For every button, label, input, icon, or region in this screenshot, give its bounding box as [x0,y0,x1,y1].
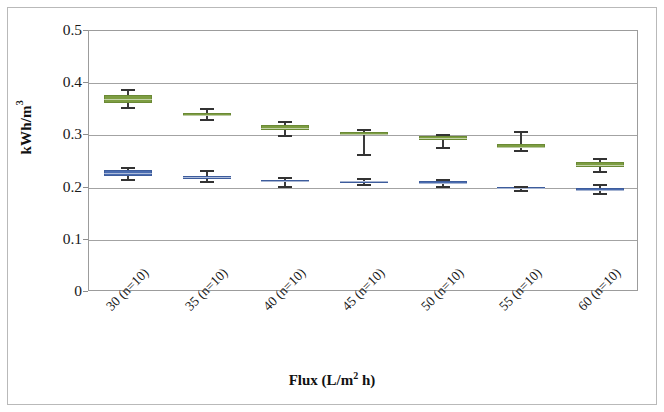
whisker-cap-high [514,131,528,133]
boxplot-green [497,31,545,292]
boxplot-green [340,31,388,292]
whisker-cap-low [200,181,214,183]
x-axis-tick-labels: 30 (n=10)35 (n=10)40 (n=10)45 (n=10)50 (… [88,291,638,371]
y-axis-tick-label: 0.3 [63,127,82,143]
whisker-cap-high [436,179,450,181]
median-line [419,183,467,184]
whisker-line [442,179,446,186]
boxplot-green [104,31,152,292]
whisker-cap-high [200,108,214,110]
y-axis-tick-label: 0.2 [63,179,82,195]
whisker-cap-low [200,119,214,121]
whisker-cap-high [278,177,292,179]
whisker-cap-low [357,154,371,156]
y-axis-tick-label: 0.4 [63,74,82,90]
whisker-line [127,167,131,180]
box [419,181,467,185]
x-axis-title-tail: h) [358,372,375,388]
median-line [419,138,467,139]
whisker-cap-high [278,121,292,123]
boxplot-blue [419,31,467,292]
whisker-line [127,89,131,107]
whisker-line [363,178,367,184]
box [104,95,152,102]
whisker-cap-high [593,184,607,186]
boxplot-blue [340,31,388,292]
whisker-cap-low [593,193,607,195]
gridline [89,135,637,136]
box [419,136,467,139]
boxplot-blue [183,31,231,292]
y-axis-title: kWh/m3 [14,100,35,155]
whisker-cap-high [593,158,607,160]
whisker-cap-low [357,184,371,186]
median-line [261,128,309,129]
box [497,144,545,148]
boxplot-series-layer [89,31,637,290]
whisker-cap-low [436,147,450,149]
median-line [183,115,231,116]
median-line [576,165,624,166]
y-axis: 0.50.40.30.20.10 [40,20,88,301]
whisker-cap-high [121,167,135,169]
box [183,176,231,179]
whisker-cap-low [514,190,528,192]
gridline [89,188,637,189]
whisker-line [363,129,367,154]
box [576,162,624,167]
plot-area [88,30,638,291]
whisker-line [599,158,603,171]
boxplot-green [261,31,309,292]
box [183,113,231,116]
whisker-line [284,121,288,136]
gridline [89,240,637,241]
box [340,181,388,184]
boxplot-blue [576,31,624,292]
whisker-line [599,184,603,192]
whisker-line [206,170,210,181]
box [261,180,309,183]
box [261,125,309,130]
boxplot-blue [497,31,545,292]
y-axis-tick-label: 0 [74,283,82,299]
median-line [497,147,545,148]
whisker-cap-high [200,170,214,172]
whisker-line [206,108,210,118]
x-axis-title: Flux (L/m2 h) [0,370,664,389]
y-axis-title-text: kWh/m [18,105,34,154]
x-axis-title-text: Flux (L/m [289,372,354,388]
whisker-cap-low [121,107,135,109]
median-line [104,99,152,100]
median-line [340,181,388,182]
whisker-cap-low [514,150,528,152]
whisker-line [520,131,524,150]
median-line [261,181,309,182]
gridline [89,83,637,84]
boxplot-blue [104,31,152,292]
y-axis-tick-label: 0.1 [63,231,82,247]
whisker-cap-high [121,89,135,91]
box [104,170,152,175]
y-axis-tick-label: 0.5 [63,22,82,38]
whisker-line [284,177,288,186]
median-line [183,177,231,178]
whisker-cap-low [121,179,135,181]
whisker-cap-high [357,178,371,180]
median-line [104,173,152,174]
y-axis-title-exponent: 3 [14,100,25,105]
figure: 0.50.40.30.20.10 kWh/m3 30 (n=10)35 (n=1… [0,0,664,412]
whisker-cap-high [357,129,371,131]
median-line [576,190,624,191]
boxplot-blue [261,31,309,292]
boxplot-green [419,31,467,292]
boxplot-green [576,31,624,292]
boxplot-green [183,31,231,292]
whisker-cap-low [593,171,607,173]
